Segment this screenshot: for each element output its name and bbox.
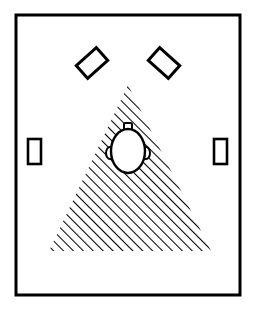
room-plan-diagram xyxy=(0,0,257,320)
side-right-speaker[interactable] xyxy=(214,139,227,164)
side-left-speaker[interactable] xyxy=(28,139,41,164)
listener-head-icon xyxy=(111,129,145,173)
diagram-canvas: Listening room plan view Room outline Ha… xyxy=(0,0,257,320)
